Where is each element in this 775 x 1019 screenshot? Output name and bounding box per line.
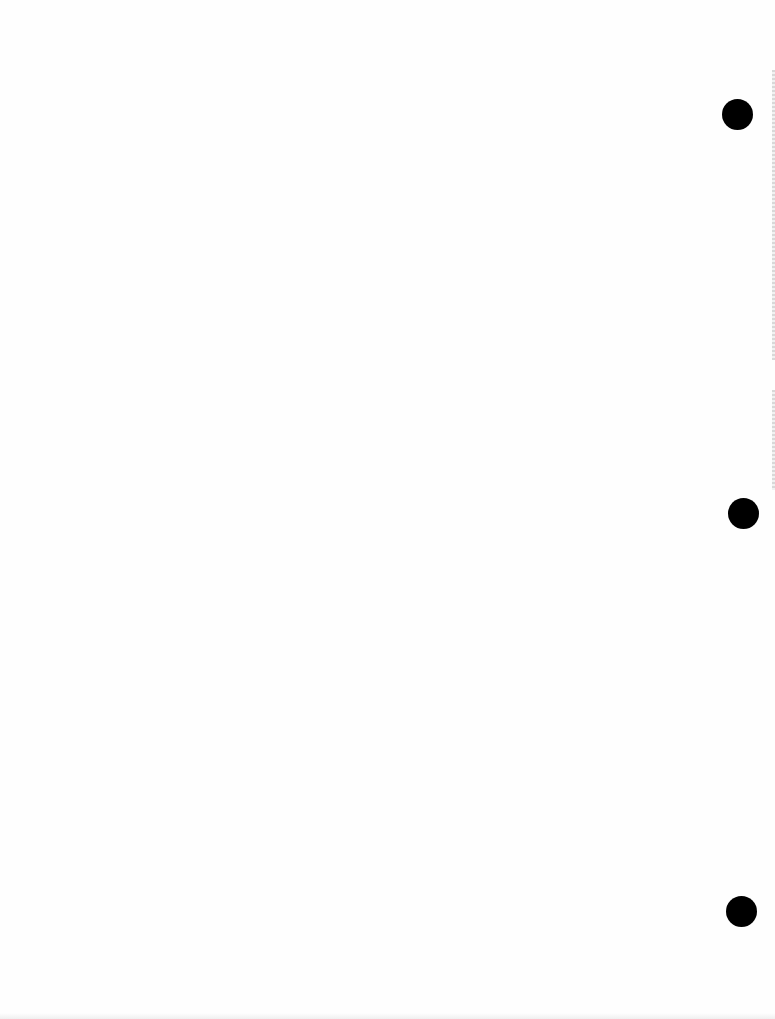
punch-hole-bottom: [726, 896, 757, 927]
punch-hole-top: [722, 99, 753, 130]
punch-hole-middle: [728, 498, 759, 529]
scanned-page: [0, 0, 775, 1019]
scan-bottom-shade: [0, 1013, 775, 1019]
